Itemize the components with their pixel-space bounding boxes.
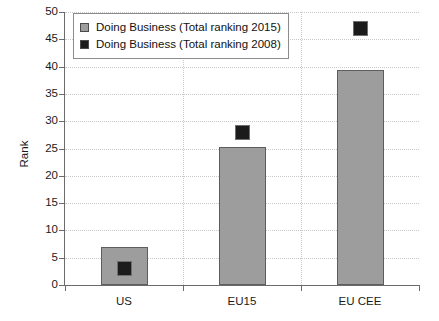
bar-chart: Rank 05101520253035404550 USEU15EU CEE D… [0, 0, 439, 321]
bar [337, 70, 384, 285]
x-tick-mark [65, 285, 66, 291]
legend-entry-2008: Doing Business (Total ranking 2008) [80, 36, 281, 53]
y-tick-label: 20 [18, 170, 58, 182]
y-tick-label: 45 [18, 34, 58, 46]
legend-label-2015: Doing Business (Total ranking 2015) [96, 22, 281, 34]
x-tick-mark [419, 285, 420, 291]
x-tick-mark [183, 285, 184, 291]
y-tick-label: 35 [18, 88, 58, 100]
x-tick-mark [301, 285, 302, 291]
y-tick-label: 30 [18, 115, 58, 127]
x-tick-label: EU CEE [301, 295, 419, 307]
y-tick-label: 5 [18, 252, 58, 264]
gray-square-swatch-icon [80, 23, 89, 32]
y-tick-label: 10 [18, 225, 58, 237]
gridline-vertical [301, 12, 302, 285]
data-point-marker [117, 261, 132, 276]
x-axis-line [64, 285, 420, 286]
bar [219, 147, 266, 285]
y-tick-label: 25 [18, 143, 58, 155]
y-tick-label: 15 [18, 197, 58, 209]
y-tick-label: 40 [18, 61, 58, 73]
chart-legend: Doing Business (Total ranking 2015) Doin… [73, 13, 289, 59]
data-point-marker [353, 21, 368, 36]
legend-label-2008: Doing Business (Total ranking 2008) [96, 39, 281, 51]
legend-entry-2015: Doing Business (Total ranking 2015) [80, 19, 281, 36]
y-tick-label: 0 [18, 279, 58, 291]
data-point-marker [235, 125, 250, 140]
y-tick-label: 50 [18, 6, 58, 18]
x-tick-label: EU15 [183, 295, 301, 307]
x-tick-label: US [65, 295, 183, 307]
black-square-swatch-icon [80, 40, 89, 49]
gridline-horizontal [65, 67, 419, 68]
